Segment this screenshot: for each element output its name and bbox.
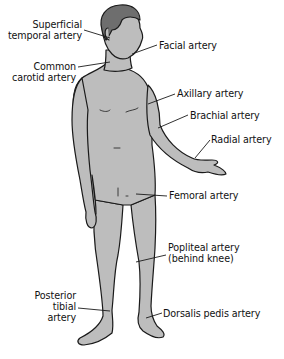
right-leg — [78, 200, 123, 345]
label-line: Popliteal artery — [168, 242, 240, 253]
label-facial-artery: Facial artery — [159, 40, 217, 51]
label-dorsalis-pedis-artery: Dorsalis pedis artery — [163, 308, 260, 319]
label-line: artery — [2, 312, 76, 323]
label-line: Common — [2, 61, 76, 72]
leader-brachial — [158, 115, 188, 128]
label-line: carotid artery — [2, 72, 76, 83]
label-line: (behind knee) — [168, 253, 240, 264]
label-brachial-artery: Brachial artery — [190, 110, 260, 121]
label-line: Radial artery — [211, 134, 272, 145]
anatomy-diagram: Superficial temporal artery Common carot… — [0, 0, 284, 359]
label-line: Femoral artery — [169, 190, 238, 201]
label-line: Facial artery — [159, 40, 217, 51]
label-posterior-tibial-artery: Posterior tibial artery — [2, 290, 76, 323]
label-superficial-temporal-artery: Superficial temporal artery — [2, 19, 82, 41]
label-line: Superficial — [2, 19, 82, 30]
label-popliteal-artery: Popliteal artery (behind knee) — [168, 242, 240, 264]
label-radial-artery: Radial artery — [211, 134, 272, 145]
label-line: Dorsalis pedis artery — [163, 308, 260, 319]
label-common-carotid-artery: Common carotid artery — [2, 61, 76, 83]
label-line: Brachial artery — [190, 110, 260, 121]
label-axillary-artery: Axillary artery — [177, 88, 243, 99]
label-line: tibial — [2, 301, 76, 312]
label-line: Axillary artery — [177, 88, 243, 99]
label-femoral-artery: Femoral artery — [169, 190, 238, 201]
left-leg — [131, 195, 164, 338]
label-line: Posterior — [2, 290, 76, 301]
label-line: temporal artery — [2, 30, 82, 41]
leader-radial — [195, 140, 210, 158]
